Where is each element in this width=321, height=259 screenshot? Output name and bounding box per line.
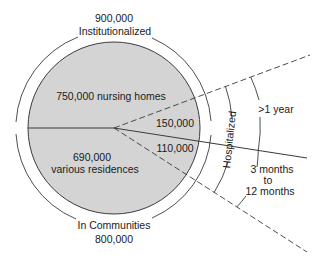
months-arc-lower bbox=[237, 196, 246, 207]
long-stay-count: 150,000 bbox=[156, 117, 194, 129]
months-label-line3: 12 months bbox=[245, 185, 294, 197]
communities-count: 800,000 bbox=[95, 233, 133, 245]
nursing-homes-label: 750,000 nursing homes bbox=[56, 90, 166, 102]
over-one-year-arc-lower bbox=[258, 117, 260, 150]
institutionalized-count: 900,000 bbox=[95, 12, 133, 24]
over-one-year-label: >1 year bbox=[258, 103, 294, 115]
over-one-year-arc-upper bbox=[251, 77, 259, 100]
hospitalized-label: Hospitalized bbox=[220, 110, 238, 168]
short-stay-count: 110,000 bbox=[156, 142, 193, 154]
institutionalized-label: Institutionalized bbox=[79, 25, 152, 37]
communities-label: In Communities bbox=[78, 219, 151, 231]
various-residences-count: 690,000 bbox=[73, 151, 111, 163]
various-residences-label: various residences bbox=[51, 163, 139, 175]
population-diagram: 900,000 Institutionalized In Communities… bbox=[0, 0, 321, 259]
